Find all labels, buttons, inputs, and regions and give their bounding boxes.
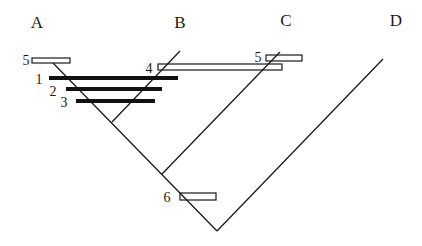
cladogram-diagram: A B C D 5 1 2 3 4 5 6 (0, 0, 422, 246)
character-label-5-a: 5 (23, 53, 30, 68)
character-label-4: 4 (146, 61, 153, 76)
character-label-5-c: 5 (255, 50, 262, 65)
taxon-label-a: A (31, 13, 44, 32)
character-label-3: 3 (61, 95, 68, 110)
taxon-label-c: C (280, 11, 291, 30)
character-label-2: 2 (50, 84, 57, 99)
taxon-label-d: D (390, 11, 402, 30)
branch-d (217, 59, 383, 231)
character-label-6: 6 (164, 190, 171, 205)
character-bar-2 (66, 87, 162, 91)
character-bar-3 (76, 99, 155, 103)
character-label-1: 1 (36, 72, 43, 87)
character-box-5-a (32, 58, 70, 63)
taxon-label-b: B (174, 13, 185, 32)
character-bar-1 (49, 76, 178, 80)
